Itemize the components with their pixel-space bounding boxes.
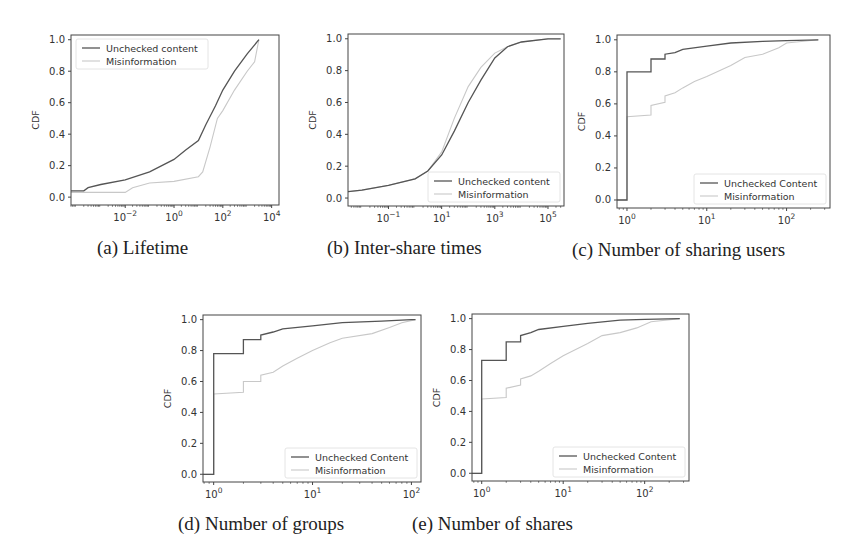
x-tick-label: 101 bbox=[554, 485, 572, 499]
y-axis-label: CDF bbox=[431, 388, 442, 407]
caption-shares: (e) Number of shares bbox=[412, 513, 573, 535]
y-tick-label: 1.0 bbox=[450, 313, 466, 324]
x-tick-label: 100 bbox=[473, 485, 491, 499]
legend-misinformation-label: Misinformation bbox=[583, 464, 654, 475]
y-tick-label: 0.8 bbox=[450, 344, 466, 355]
y-tick-label: 0.2 bbox=[450, 437, 466, 448]
y-tick-label: 0.0 bbox=[450, 468, 466, 479]
legend-unchecked-label: Unchecked Content bbox=[583, 451, 676, 462]
legend: Unchecked ContentMisinformation bbox=[553, 447, 685, 477]
y-tick-label: 0.6 bbox=[450, 375, 466, 386]
chart-shares: 0.00.20.40.60.81.0CDF100101102Unchecked … bbox=[0, 0, 867, 559]
y-tick-label: 0.4 bbox=[450, 406, 466, 417]
x-tick-label: 102 bbox=[636, 485, 654, 499]
